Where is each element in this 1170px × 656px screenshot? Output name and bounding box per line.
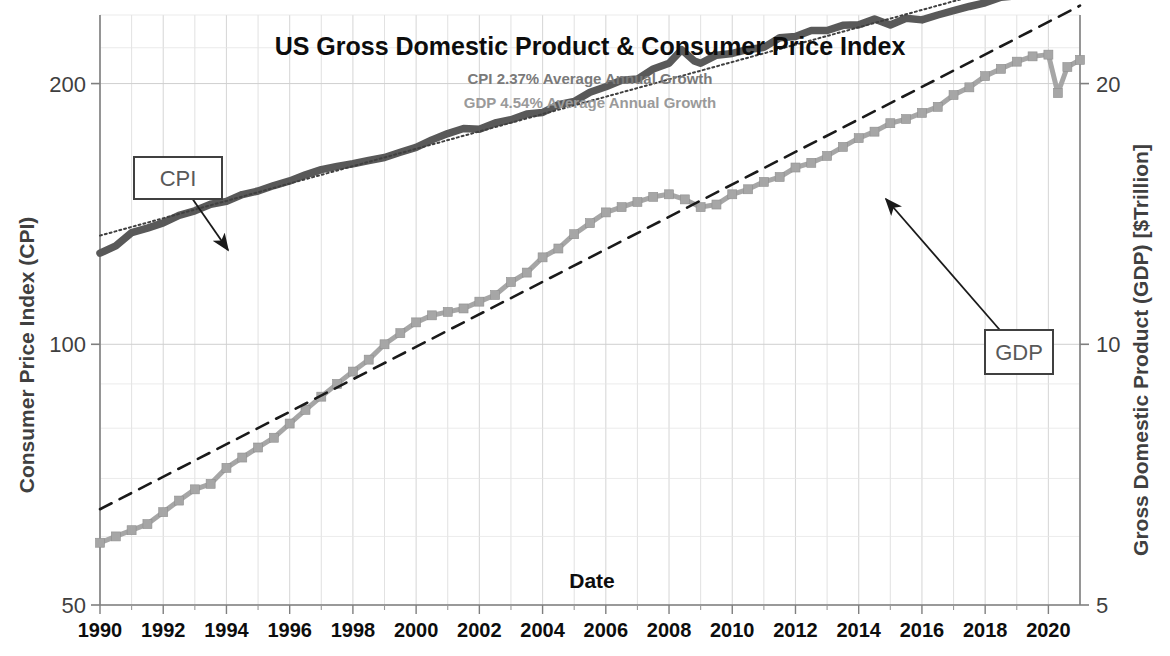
gdp-marker	[775, 173, 784, 182]
gdp-cpi-chart: 2001005020105199019921994199619982000200…	[0, 0, 1170, 656]
y-axis-title: Consumer Price Index (CPI)	[15, 217, 38, 494]
x-tick-label: 1992	[141, 619, 186, 641]
gdp-marker	[380, 340, 389, 349]
x-tick-label: 2008	[647, 619, 692, 641]
gdp-marker	[586, 219, 595, 228]
gdp-marker	[1028, 52, 1037, 61]
x-tick-label: 2006	[584, 619, 629, 641]
gdp-marker	[617, 203, 626, 212]
cpi-growth-note: CPI 2.37% Average Annual Growth	[467, 70, 712, 87]
callout-label: CPI	[160, 166, 197, 191]
callout-gdp: GDP	[886, 199, 1053, 374]
x-tick-label: 1998	[331, 619, 376, 641]
gdp-marker	[633, 197, 642, 206]
x-tick-label: 2018	[963, 619, 1008, 641]
gdp-marker	[1012, 57, 1021, 66]
gdp-marker	[175, 496, 184, 505]
y2-axis-title: Gross Domestic Product (GDP) [$Trillion]	[1129, 144, 1152, 556]
x-tick-label: 2002	[457, 619, 502, 641]
gdp-marker	[206, 479, 215, 488]
page-title: US Gross Domestic Product & Consumer Pri…	[275, 32, 906, 60]
gdp-marker	[427, 311, 436, 320]
x-tick-label: 1990	[78, 619, 123, 641]
chart-container: 2001005020105199019921994199619982000200…	[0, 0, 1170, 656]
gdp-marker	[933, 102, 942, 111]
gdp-marker	[443, 307, 452, 316]
gdp-marker	[917, 108, 926, 117]
gdp-marker	[949, 91, 958, 100]
series-gdp	[100, 55, 1080, 543]
gdp-marker	[459, 304, 468, 313]
gdp-marker	[396, 329, 405, 338]
gdp-marker	[348, 367, 357, 376]
gdp-marker	[269, 433, 278, 442]
gdp-growth-note: GDP 4.54% Average Annual Growth	[464, 94, 716, 111]
gdp-marker	[570, 230, 579, 239]
gdp-marker	[823, 151, 832, 160]
gdp-marker	[712, 200, 721, 209]
gdp-marker	[111, 532, 120, 541]
x-axis-title: Date	[569, 569, 615, 592]
gdp-marker	[728, 190, 737, 199]
gdp-marker	[143, 520, 152, 529]
y-tick-label: 100	[49, 332, 86, 357]
y-tick-label: 50	[62, 593, 86, 618]
gdp-marker	[854, 134, 863, 143]
y2-tick-label: 20	[1096, 72, 1120, 97]
gdp-marker	[791, 163, 800, 172]
gdp-marker	[506, 278, 515, 287]
gdp-marker	[870, 127, 879, 136]
x-tick-label: 2020	[1026, 619, 1071, 641]
gdp-marker	[364, 355, 373, 364]
gdp-marker	[285, 419, 294, 428]
gdp-marker	[665, 190, 674, 199]
x-tick-label: 2010	[710, 619, 755, 641]
x-tick-label: 2004	[520, 619, 565, 641]
gdp-marker	[522, 268, 531, 277]
gdp-marker	[996, 64, 1005, 73]
gdp-marker	[744, 185, 753, 194]
gdp-marker	[491, 291, 500, 300]
gdp-marker	[254, 443, 263, 452]
gdp-marker	[1044, 50, 1053, 59]
gdp-marker	[222, 463, 231, 472]
gdp-marker	[759, 177, 768, 186]
gdp-marker	[127, 526, 136, 535]
y2-tick-label: 10	[1096, 332, 1120, 357]
x-tick-label: 2014	[836, 619, 881, 641]
gdp-marker	[965, 83, 974, 92]
x-tick-label: 1996	[267, 619, 312, 641]
gdp-marker	[1076, 55, 1085, 64]
gdp-marker	[601, 208, 610, 217]
gdp-marker	[1053, 89, 1062, 98]
x-tick-label: 2000	[394, 619, 439, 641]
gdp-marker	[838, 142, 847, 151]
gdp-marker	[680, 195, 689, 204]
gdp-marker	[412, 318, 421, 327]
gdp-marker	[159, 508, 168, 517]
gdp-marker	[902, 115, 911, 124]
gdp-marker	[190, 485, 199, 494]
y2-tick-label: 5	[1096, 593, 1108, 618]
gdp-marker	[538, 253, 547, 262]
gdp-marker	[649, 192, 658, 201]
gdp-marker	[807, 158, 816, 167]
axis-ticks	[91, 84, 1089, 614]
x-tick-label: 2012	[773, 619, 818, 641]
gdp-marker	[696, 203, 705, 212]
callout-label: GDP	[995, 340, 1043, 365]
gdp-marker	[886, 119, 895, 128]
gdp-marker	[475, 297, 484, 306]
x-tick-label: 1994	[204, 619, 249, 641]
gdp-marker	[1063, 63, 1072, 72]
x-tick-label: 2016	[900, 619, 945, 641]
gdp-marker	[554, 244, 563, 253]
gdp-marker	[96, 538, 105, 547]
gdp-marker	[238, 453, 247, 462]
gdp-marker	[981, 72, 990, 81]
y-tick-label: 200	[49, 72, 86, 97]
